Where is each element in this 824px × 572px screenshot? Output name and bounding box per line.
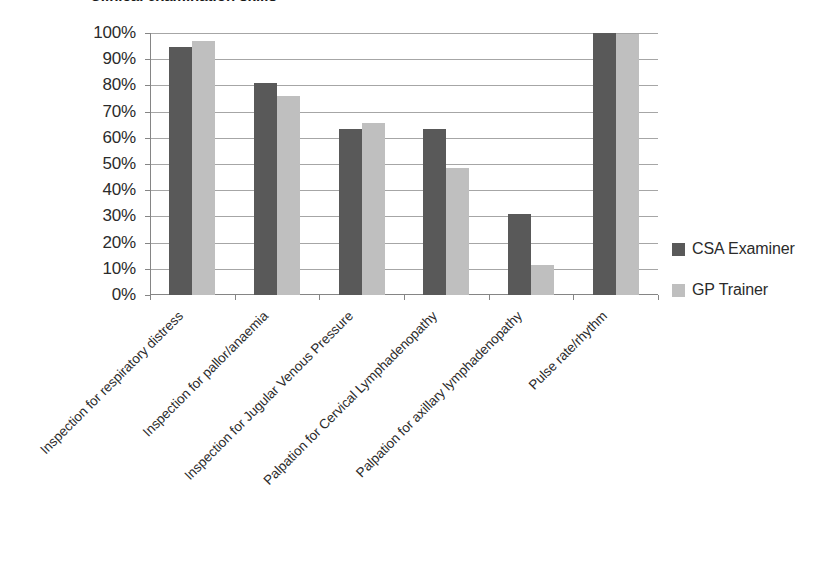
bar-group — [404, 33, 489, 295]
x-axis-category-label: Palpation for axillary lymphadenopathy — [514, 308, 525, 319]
x-axis-category-label: Pulse rate/rhythm — [599, 308, 610, 319]
y-axis-tick — [145, 33, 150, 34]
legend-swatch-icon — [672, 284, 685, 297]
y-axis-tick-label: 80% — [103, 75, 136, 95]
bar-csa-examiner[interactable] — [339, 129, 362, 295]
y-axis-tick-label: 60% — [103, 128, 136, 148]
y-axis-tick-label: 90% — [103, 49, 136, 69]
bar-csa-examiner[interactable] — [593, 33, 616, 295]
x-axis-category-label: Inspection for pallor/anaemia — [260, 308, 271, 319]
legend-item[interactable]: CSA Examiner — [672, 240, 824, 258]
y-axis-tick-label: 20% — [103, 233, 136, 253]
legend-item[interactable]: GP Trainer — [672, 281, 824, 299]
chart-title-clipped: Clinical examination skills — [90, 0, 510, 3]
bar-gp-trainer[interactable] — [616, 34, 639, 295]
y-axis-labels: 100%90%80%70%60%50%40%30%20%10%0% — [58, 33, 144, 295]
legend-swatch-icon — [672, 243, 685, 256]
bar-group — [573, 33, 658, 295]
x-axis-tick — [573, 295, 574, 300]
x-axis-category-label: Inspection for respiratory distress — [176, 308, 187, 319]
y-axis-tick — [145, 164, 150, 165]
y-axis-tick — [145, 138, 150, 139]
y-axis-tick — [145, 243, 150, 244]
y-axis-tick — [145, 216, 150, 217]
y-axis-tick-label: 10% — [103, 259, 136, 279]
bar-gp-trainer[interactable] — [277, 96, 300, 295]
y-axis-tick-label: 70% — [103, 102, 136, 122]
y-axis-tick — [145, 112, 150, 113]
bar-group — [319, 33, 404, 295]
bar-csa-examiner[interactable] — [508, 214, 531, 295]
y-axis-tick — [145, 85, 150, 86]
bar-group — [235, 33, 320, 295]
y-axis-tick-label: 100% — [93, 23, 136, 43]
bar-gp-trainer[interactable] — [362, 123, 385, 295]
y-axis-tick-label: 0% — [112, 285, 136, 305]
bar-csa-examiner[interactable] — [169, 47, 192, 295]
x-axis-tick — [319, 295, 320, 300]
y-axis-tick — [145, 269, 150, 270]
y-axis-tick-label: 40% — [103, 180, 136, 200]
bar-group — [150, 33, 235, 295]
x-axis-tick — [150, 295, 151, 300]
x-axis-category-label: Inspection for Jugular Venous Pressure — [345, 308, 356, 319]
bar-group — [489, 33, 574, 295]
y-axis-tick-label: 50% — [103, 154, 136, 174]
x-axis-tick — [658, 295, 659, 300]
legend-label: GP Trainer — [692, 281, 768, 299]
x-axis-category-label: Palpation for Cervical Lymphadenopathy — [430, 308, 441, 319]
x-axis-tick — [489, 295, 490, 300]
bar-gp-trainer[interactable] — [446, 168, 469, 295]
bar-groups — [150, 33, 658, 295]
legend-label: CSA Examiner — [692, 240, 795, 258]
y-axis-tick — [145, 59, 150, 60]
bar-gp-trainer[interactable] — [531, 265, 554, 295]
plot-area — [150, 33, 658, 295]
bar-csa-examiner[interactable] — [423, 129, 446, 295]
chart-container: Clinical examination skills 100%90%80%70… — [0, 0, 824, 572]
chart-legend: CSA ExaminerGP Trainer — [672, 240, 824, 322]
y-axis-tick-label: 30% — [103, 206, 136, 226]
bar-gp-trainer[interactable] — [192, 41, 215, 295]
x-axis-tick — [235, 295, 236, 300]
bar-csa-examiner[interactable] — [254, 83, 277, 295]
y-axis-tick — [145, 190, 150, 191]
x-axis-tick — [404, 295, 405, 300]
